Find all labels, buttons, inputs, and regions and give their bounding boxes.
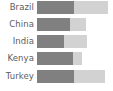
table-row: Kenya — [0, 52, 113, 65]
stacked-bar-turkey — [37, 70, 113, 83]
plot-area: Brazil China India Kenya — [0, 0, 113, 91]
bar-chart: Brazil China India Kenya — [0, 0, 113, 91]
bar-segment-series-1 — [37, 18, 70, 31]
bar-segment-series-2 — [74, 1, 107, 14]
stacked-bar-india — [37, 35, 113, 48]
category-label-brazil: Brazil — [0, 1, 37, 14]
bar-segment-series-2 — [64, 35, 86, 48]
bar-segment-series-1 — [37, 52, 73, 65]
bar-segment-series-1 — [37, 35, 64, 48]
stacked-bar-kenya — [37, 52, 113, 65]
bar-segment-series-1 — [37, 70, 74, 83]
bar-segment-series-1 — [37, 1, 74, 14]
category-label-kenya: Kenya — [0, 52, 37, 65]
bar-segment-series-2 — [70, 18, 86, 31]
table-row: Brazil — [0, 1, 113, 14]
category-label-turkey: Turkey — [0, 70, 37, 83]
table-row: India — [0, 35, 113, 48]
stacked-bar-brazil — [37, 1, 113, 14]
category-label-china: China — [0, 18, 37, 31]
table-row: Turkey — [0, 70, 113, 83]
bar-segment-series-2 — [74, 70, 105, 83]
stacked-bar-china — [37, 18, 113, 31]
bar-segment-series-2 — [73, 52, 82, 65]
category-label-india: India — [0, 35, 37, 48]
table-row: China — [0, 18, 113, 31]
